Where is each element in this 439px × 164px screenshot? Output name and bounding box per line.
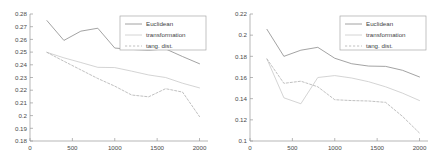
y-tick-label: 0.12: [235, 116, 248, 123]
y-tick-label: 0.28: [15, 10, 28, 17]
chart-svg-left: 0.180.190.20.210.220.230.240.250.260.270…: [0, 0, 219, 164]
chart-panel-right: 0.10.120.140.160.180.20.22 0500100015002…: [219, 0, 438, 164]
x-tick-label: 1000: [328, 144, 342, 151]
series-line-transformation: [47, 52, 200, 88]
y-tick-label: 0.22: [235, 10, 248, 17]
chart-panel-left: 0.180.190.20.210.220.230.240.250.260.270…: [0, 0, 219, 164]
legend-label-1: Euclidean: [146, 20, 174, 27]
x-ticks-right: 0500100015002000: [248, 138, 427, 151]
y-tick-label: 0.25: [15, 48, 28, 55]
legend-label-2: transformation: [146, 31, 186, 38]
x-tick-label: 0: [28, 144, 32, 151]
x-tick-label: 1500: [150, 144, 164, 151]
series-line-transformation: [267, 59, 420, 104]
chart-svg-right: 0.10.120.140.160.180.20.22 0500100015002…: [219, 0, 439, 164]
y-tick-label: 0.14: [235, 95, 248, 102]
x-tick-label: 0: [248, 144, 252, 151]
y-tick-label: 0.21: [15, 99, 28, 106]
y-tick-label: 0.27: [15, 23, 28, 30]
x-tick-label: 1000: [108, 144, 122, 151]
legend-right: Euclideantransformationtang. dist.: [340, 16, 426, 50]
legend-label-3: tang. dist.: [146, 42, 173, 49]
x-tick-label: 500: [67, 144, 78, 151]
y-tick-label: 0.19: [15, 125, 28, 132]
legend-label-1: Euclidean: [366, 20, 394, 27]
series-line-tang-dist: [47, 52, 200, 116]
legend-left: Euclideantransformationtang. dist.: [120, 16, 206, 50]
y-tick-label: 0.18: [15, 137, 28, 144]
x-tick-label: 1500: [370, 144, 384, 151]
y-tick-label: 0.16: [235, 74, 248, 81]
y-tick-label: 0.2: [18, 112, 27, 119]
y-tick-label: 0.26: [15, 36, 28, 43]
x-tick-label: 2000: [193, 144, 207, 151]
x-tick-label: 2000: [413, 144, 427, 151]
y-tick-label: 0.23: [15, 74, 28, 81]
legend-label-3: tang. dist.: [366, 42, 393, 49]
legend-label-2: transformation: [366, 31, 406, 38]
x-ticks-left: 0500100015002000: [28, 138, 207, 151]
y-tick-label: 0.22: [15, 86, 28, 93]
y-tick-label: 0.1: [238, 137, 247, 144]
y-tick-label: 0.2: [238, 31, 247, 38]
figure-container: 0.180.190.20.210.220.230.240.250.260.270…: [0, 0, 439, 164]
series-line-tang-dist: [267, 59, 420, 133]
y-tick-label: 0.24: [15, 61, 28, 68]
x-tick-label: 500: [287, 144, 298, 151]
y-tick-label: 0.18: [235, 53, 248, 60]
